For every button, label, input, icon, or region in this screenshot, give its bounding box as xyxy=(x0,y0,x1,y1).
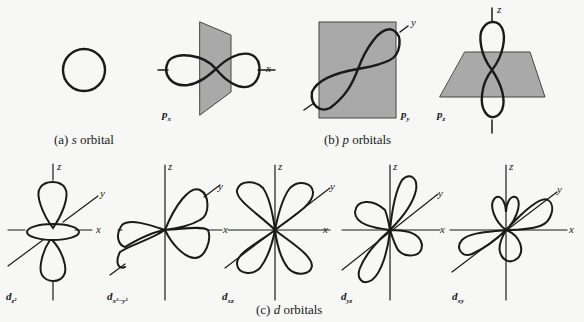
dz2-orbital-shape xyxy=(8,164,98,300)
py-label: py xyxy=(401,108,410,123)
dxy-y-axis-label: y xyxy=(557,183,562,195)
dxz-orbital-shape xyxy=(225,165,330,300)
px-orbital-shape xyxy=(158,22,275,115)
dxy-x-axis-label: x xyxy=(569,223,574,235)
dxz-x-axis-label: x xyxy=(323,223,328,235)
dz2-z-axis-label: z xyxy=(57,160,61,172)
pz-label: pz xyxy=(437,108,445,123)
dx2y2-label: dx²−y² xyxy=(107,290,128,305)
dxy-z-axis-label: z xyxy=(509,160,513,172)
dx2y2-y-axis-label: y xyxy=(218,180,223,192)
dyz-y-axis-label: y xyxy=(438,187,443,199)
dx2y2-z-axis-label: z xyxy=(168,160,172,172)
px-x-axis-label: x xyxy=(266,62,271,74)
caption-d-orbitals: (c) d orbitals xyxy=(256,302,322,318)
dxz-z-axis-label: z xyxy=(278,160,282,172)
py-orbital-shape xyxy=(304,22,408,118)
dz2-label: dz² xyxy=(6,290,16,305)
dxy-label: dxy xyxy=(452,290,464,305)
dyz-orbital-shape xyxy=(342,165,440,300)
dx2y2-x-axis-label: x xyxy=(223,223,228,235)
dxz-y-axis-label: y xyxy=(330,180,335,192)
pz-orbital-shape xyxy=(440,8,545,133)
px-label: px xyxy=(162,108,171,123)
dz2-y-axis-label: y xyxy=(100,187,105,199)
dyz-x-axis-label: x xyxy=(440,223,445,235)
py-y-axis-label: y xyxy=(411,16,416,28)
orbital-diagram xyxy=(0,0,584,322)
caption-s-orbital: (a) s orbital xyxy=(54,132,114,148)
dyz-z-axis-label: z xyxy=(393,160,397,172)
dyz-label: dyz xyxy=(341,290,352,305)
s-orbital-shape xyxy=(63,49,105,91)
dxz-label: dxz xyxy=(222,290,234,305)
dxy-orbital-shape xyxy=(450,165,567,300)
dz2-x-axis-label: x xyxy=(96,223,101,235)
caption-p-orbitals: (b) p orbitals xyxy=(324,132,391,148)
dx2y2-orbital-shape xyxy=(110,165,222,300)
pz-z-axis-label: z xyxy=(497,3,501,15)
